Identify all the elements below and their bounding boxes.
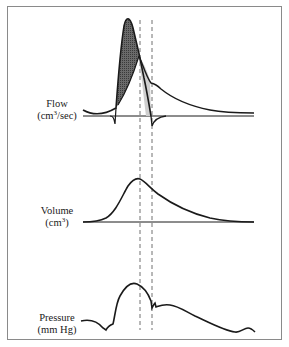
flow-label-units: (cm3/sec) [28,110,86,122]
volume-curve [83,179,254,222]
volume-label: Volume (cm3) [31,205,83,229]
pressure-label-units: (mm Hg) [30,324,84,336]
flow-closure-dip [151,116,166,126]
volume-units-pre: (cm [45,217,61,228]
hemodynamics-diagram [0,0,289,347]
volume-label-units: (cm3) [31,217,83,229]
flow-units-post: /sec) [57,110,77,121]
flow-units-pre: (cm [37,110,53,121]
volume-label-title: Volume [31,205,83,217]
pressure-label: Pressure (mm Hg) [30,312,84,336]
volume-units-post: ) [65,217,69,228]
flow-curve-secondary [139,56,254,113]
flow-label: Flow (cm3/sec) [28,98,86,122]
pressure-label-title: Pressure [30,312,84,324]
pressure-curve [81,283,255,332]
flow-label-title: Flow [28,98,86,110]
